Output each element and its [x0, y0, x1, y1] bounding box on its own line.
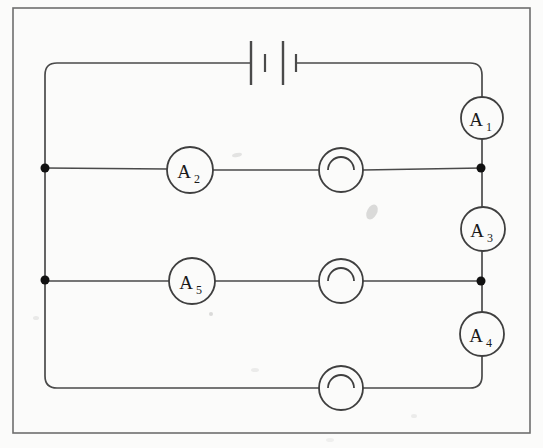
ammeter-a2-subscript: 2	[194, 172, 200, 186]
junction-dot-right-bottom	[477, 277, 486, 286]
smudge-below-frame	[326, 438, 334, 442]
smudge-near-bottom-lamp	[411, 414, 417, 418]
smudge-row2	[209, 312, 213, 316]
junction-dot-left-top	[41, 164, 50, 173]
wire-row1-left-to-a2	[45, 168, 167, 169]
ammeter-a2: A 2	[167, 147, 213, 193]
circuit-schematic: A 1 A 2 A 3 A 4 A 5	[0, 0, 543, 448]
circuit-diagram-canvas: A 1 A 2 A 3 A 4 A 5	[0, 0, 543, 448]
ammeter-a3-subscript: 3	[487, 231, 493, 245]
smudge-lowerleft	[33, 316, 39, 320]
ammeter-a1-label: A	[469, 109, 483, 130]
ammeter-a3-label: A	[470, 220, 484, 241]
ammeter-a3: A 3	[461, 207, 505, 251]
ammeter-a1-subscript: 1	[486, 120, 492, 134]
ammeter-a4-subscript: 4	[486, 336, 492, 350]
ammeter-a4: A 4	[460, 312, 504, 356]
ammeter-a4-label: A	[469, 325, 483, 346]
ammeter-a5-label: A	[179, 272, 193, 293]
ammeter-a5: A 5	[169, 258, 215, 304]
junction-dot-right-top	[477, 164, 486, 173]
ammeter-a1: A 1	[461, 97, 503, 139]
ammeter-a5-subscript: 5	[196, 283, 202, 297]
ammeter-a2-label: A	[177, 161, 191, 182]
junction-dot-left-bottom	[41, 276, 50, 285]
smudge-bottom	[251, 368, 259, 372]
